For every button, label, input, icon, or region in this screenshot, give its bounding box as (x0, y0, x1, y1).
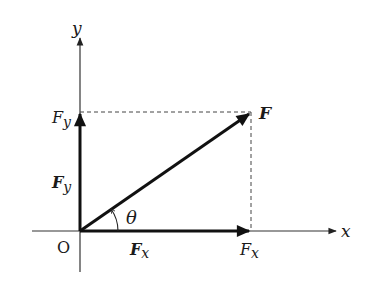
origin-label: O (57, 238, 70, 257)
resultant-label: F (258, 103, 273, 123)
y-component-label: Fy (51, 173, 72, 195)
x-axis-label: x (341, 221, 351, 241)
force-diagram: y x O F Fy Fy Fx Fx θ (0, 0, 367, 285)
resultant-vector (80, 114, 249, 231)
y-axis-label: y (71, 18, 82, 38)
angle-arc (111, 209, 118, 231)
y-tick-label: Fy (51, 108, 72, 130)
angle-label: θ (126, 207, 137, 228)
x-tick-label: Fx (239, 240, 259, 261)
x-component-label: Fx (129, 240, 149, 261)
